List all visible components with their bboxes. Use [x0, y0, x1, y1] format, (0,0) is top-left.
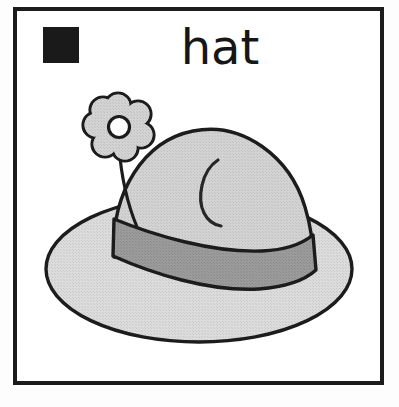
flower-center [109, 117, 130, 138]
hat-illustration-svg [13, 7, 384, 385]
flower-head [83, 93, 154, 161]
flashcard-root: hat [0, 0, 399, 407]
hat-illustration [13, 7, 384, 385]
